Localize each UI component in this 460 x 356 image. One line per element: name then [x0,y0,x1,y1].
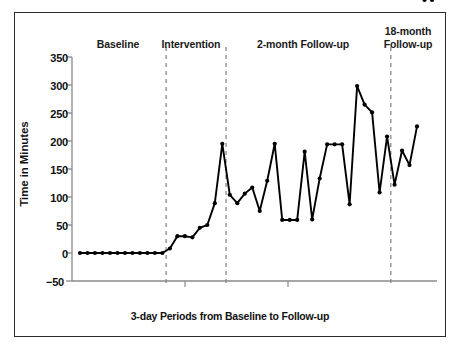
data-point [250,185,254,189]
phase-label-intervention: Intervention [150,38,232,50]
data-point [160,251,164,255]
phase-divider-lines [166,47,391,284]
data-point [273,142,277,146]
y-tick-200: 200 [34,136,68,148]
data-point [153,251,157,255]
data-point [370,110,374,114]
data-point [422,0,426,2]
data-point [377,190,381,194]
data-point [310,217,314,221]
data-point [265,179,269,183]
phase-label-baseline: Baseline [78,38,158,50]
data-point [340,142,344,146]
data-point [318,176,322,180]
data-point [93,251,97,255]
plot-area [0,0,460,356]
y-tick-0: 0 [34,248,68,260]
data-point [258,209,262,213]
data-point [303,150,307,154]
x-axis-ticks [185,281,288,287]
data-point [288,218,292,222]
data-point [348,202,352,206]
data-point [220,142,224,146]
data-point [190,235,194,239]
y-axis-title: Time in Minutes [18,109,30,219]
y-tick-350: 350 [34,52,68,64]
y-tick-300: 300 [34,80,68,92]
data-point [363,103,367,107]
data-point [407,163,411,167]
data-series-line [80,86,417,253]
data-point [145,251,149,255]
data-point [85,251,89,255]
phase-label-18-month-follow-up-line2: Follow-up [370,38,446,50]
y-tick-minus-50: −50 [30,276,64,288]
y-tick-50: 50 [34,220,68,232]
data-point [183,234,187,238]
phase-label-18-month-follow-up-line1: 18-month [370,25,446,37]
x-axis-title: 3-day Periods from Baseline to Follow-up [60,310,400,322]
data-point [205,223,209,227]
y-tick-150: 150 [34,164,68,176]
data-point [295,218,299,222]
data-point [392,183,396,187]
data-point [168,246,172,250]
data-point [430,0,434,2]
data-point [100,251,104,255]
data-point [228,193,232,197]
y-tick-100: 100 [34,192,68,204]
data-point [123,251,127,255]
line-chart: Baseline Intervention 2-month Follow-up … [0,0,460,356]
data-point [325,142,329,146]
data-point [115,251,119,255]
data-point [385,134,389,138]
data-point [108,251,112,255]
data-point [198,226,202,230]
data-point [78,251,82,255]
y-tick-250: 250 [34,108,68,120]
data-point [138,251,142,255]
data-point [355,84,359,88]
data-point [333,142,337,146]
data-point [213,201,217,205]
data-point [280,218,284,222]
data-point [400,148,404,152]
data-point [130,251,134,255]
data-point [243,192,247,196]
data-point [235,201,239,205]
data-point [175,234,179,238]
phase-label-2-month-follow-up: 2-month Follow-up [238,38,368,50]
data-point [415,124,419,128]
